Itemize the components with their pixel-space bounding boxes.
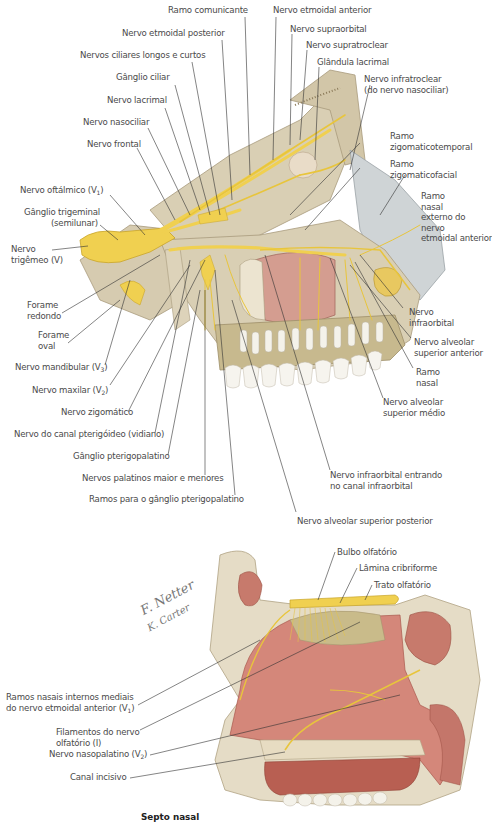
label-ramo-zigomaticofacial-line1: Ramo xyxy=(390,159,457,170)
label-nervo-infraorbital-line2: infraorbital xyxy=(409,318,454,329)
label-ramos-ganglio: Ramos para o gânglio pterigopalatino xyxy=(89,494,244,505)
label-ramo-zigomaticotemporal-line2: zigomaticotemporal xyxy=(390,142,472,153)
label-nervo-infratroclear: Nervo infratroclear (do nervo nasociliar… xyxy=(364,74,448,95)
label-ramo-nasal-externo-line2: nasal xyxy=(421,202,492,213)
label-glandula-lacrimal: Glândula lacrimal xyxy=(317,57,389,68)
label-nervo-infraorbital-canal: Nervo infraorbital entrando no canal inf… xyxy=(330,470,442,491)
label-nervos-ciliares: Nervos ciliares longos e curtos xyxy=(80,50,205,61)
label-ramos-nasais-sub: 1 xyxy=(128,707,132,714)
label-nervo-nasopalatino-sub: 2 xyxy=(140,753,144,760)
label-nervo-oftalmico-sub: 1 xyxy=(97,189,101,196)
label-nervo-mandibular: Nervo mandibular (V3) xyxy=(15,362,107,376)
label-ganglio-ciliar: Gânglio ciliar xyxy=(116,72,169,83)
label-trato-olfatorio: Trato olfatório xyxy=(374,580,431,591)
label-forame-oval-line2: oval xyxy=(38,341,69,352)
label-ramo-zigomaticofacial: Ramo zigomaticofacial xyxy=(390,159,457,180)
label-ramo-nasal-line1: Ramo xyxy=(416,367,440,378)
label-nervo-alveolar-posterior: Nervo alveolar superior posterior xyxy=(297,516,433,527)
label-forame-oval-line1: Forame xyxy=(38,330,69,341)
label-forame-redondo-line2: redondo xyxy=(27,311,61,322)
label-nervo-trigemeo-line1: Nervo xyxy=(11,244,63,255)
label-ganglio-trigeminal-line2: (semilunar) xyxy=(24,218,98,229)
label-forame-redondo-line1: Forame xyxy=(27,300,61,311)
label-nervo-alveolar-anterior-line2: superior anterior xyxy=(414,348,483,359)
label-nervo-alveolar-medio: Nervo alveolar superior médio xyxy=(383,397,445,418)
label-nervo-maxilar-sub: 2 xyxy=(101,389,105,396)
caption-septo-nasal: Septo nasal xyxy=(141,812,199,822)
label-nervo-infraorbital: Nervo infraorbital xyxy=(409,307,454,328)
label-nervo-nasopalatino: Nervo nasopalatino (V2) xyxy=(49,749,147,763)
label-ramo-zigomaticotemporal-line1: Ramo xyxy=(390,131,472,142)
label-filamentos-line1: Filamentos do nervo xyxy=(56,727,140,738)
label-nervos-palatinos: Nervos palatinos maior e menores xyxy=(82,473,224,484)
label-ramos-nasais-line2-text: do nervo etmoidal anterior (V xyxy=(6,703,128,713)
label-nervo-maxilar-text: Nervo maxilar (V xyxy=(32,385,101,395)
label-ramo-zigomaticofacial-line2: zigomaticofacial xyxy=(390,170,457,181)
label-ramo-zigomaticotemporal: Ramo zigomaticotemporal xyxy=(390,131,472,152)
label-ramo-nasal-externo-line3: externo do xyxy=(421,212,492,223)
label-nervo-infraorbital-line1: Nervo xyxy=(409,307,454,318)
label-nervo-infratroclear-line1: Nervo infratroclear xyxy=(364,74,448,85)
label-forame-redondo: Forame redondo xyxy=(27,300,61,321)
label-nervo-supratroclear: Nervo supratroclear xyxy=(306,40,388,51)
label-ramo-nasal-externo-line5: etmoidal anterior xyxy=(421,233,492,244)
label-bulbo-olfatorio: Bulbo olfatório xyxy=(337,547,397,558)
label-filamentos-line2: olfatório (I) xyxy=(56,738,140,749)
label-nervo-trigemeo: Nervo trigêmeo (V) xyxy=(11,244,63,265)
label-ramos-nasais: Ramos nasais internos mediais do nervo e… xyxy=(6,692,134,716)
label-nervo-infraorbital-canal-line1: Nervo infraorbital entrando xyxy=(330,470,442,481)
label-filamentos: Filamentos do nervo olfatório (I) xyxy=(56,727,140,748)
label-forame-oval: Forame oval xyxy=(38,330,69,351)
label-ramo-nasal: Ramo nasal xyxy=(416,367,440,388)
label-nervo-maxilar: Nervo maxilar (V2) xyxy=(32,385,108,399)
label-nervo-oftalmico: Nervo oftálmico (V1) xyxy=(20,185,103,199)
label-ganglio-trigeminal: Gânglio trigeminal (semilunar) xyxy=(24,207,98,228)
label-nervo-lacrimal: Nervo lacrimal xyxy=(107,95,167,106)
label-ganglio-pterigopalatino: Gânglio pterigopalatino xyxy=(73,451,170,462)
label-nervo-mandibular-sub: 3 xyxy=(101,366,105,373)
label-nervo-frontal: Nervo frontal xyxy=(87,139,141,150)
label-nervo-nasopalatino-text: Nervo nasopalatino (V xyxy=(49,749,140,759)
label-nervo-alveolar-anterior: Nervo alveolar superior anterior xyxy=(414,337,483,358)
label-ramos-nasais-line1: Ramos nasais internos mediais xyxy=(6,692,134,703)
label-canal-incisivo: Canal incisivo xyxy=(70,772,126,783)
label-nervo-etmoidal-posterior: Nervo etmoidal posterior xyxy=(122,28,225,39)
label-ramo-nasal-externo-line1: Ramo xyxy=(421,191,492,202)
label-nervo-alveolar-medio-line1: Nervo alveolar xyxy=(383,397,445,408)
label-nervo-infratroclear-line2: (do nervo nasociliar) xyxy=(364,85,448,96)
label-ramos-nasais-line2: do nervo etmoidal anterior (V1) xyxy=(6,703,134,717)
label-nervo-canal-pterigoideo: Nervo do canal pterigóideo (vidiano) xyxy=(14,429,164,440)
label-nervo-mandibular-text: Nervo mandibular (V xyxy=(15,362,101,372)
label-ramo-nasal-line2: nasal xyxy=(416,378,440,389)
label-nervo-supraorbital: Nervo supraorbital xyxy=(290,24,367,35)
label-nervo-infraorbital-canal-line2: no canal infraorbital xyxy=(330,481,442,492)
label-ramo-nasal-externo: Ramo nasal externo do nervo etmoidal ant… xyxy=(421,191,492,244)
label-nervo-trigemeo-line2: trigêmeo (V) xyxy=(11,255,63,266)
label-ganglio-trigeminal-line1: Gânglio trigeminal xyxy=(24,207,98,218)
label-nervo-zigomatico: Nervo zigomático xyxy=(61,407,133,418)
label-ramo-comunicante: Ramo comunicante xyxy=(168,5,248,16)
label-lamina-cribriforme: Lâmina cribriforme xyxy=(359,563,437,574)
label-ramo-nasal-externo-line4: nervo xyxy=(421,223,492,234)
label-nervo-oftalmico-text: Nervo oftálmico (V xyxy=(20,185,97,195)
label-nervo-alveolar-anterior-line1: Nervo alveolar xyxy=(414,337,483,348)
label-nervo-nasociliar: Nervo nasociliar xyxy=(83,117,149,128)
label-nervo-alveolar-medio-line2: superior médio xyxy=(383,408,445,419)
label-nervo-etmoidal-anterior: Nervo etmoidal anterior xyxy=(273,5,371,16)
